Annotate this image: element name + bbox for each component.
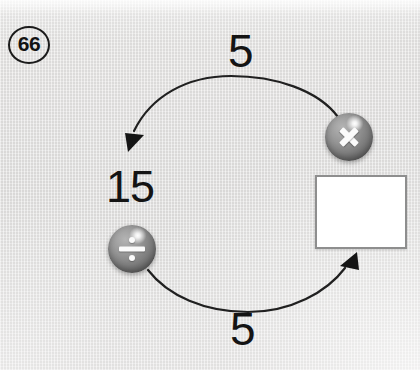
multiply-operator-ball — [325, 113, 373, 161]
arrow-label-top: 5 — [228, 28, 254, 74]
problem-number-badge: 66 — [8, 26, 50, 64]
divide-operator-ball — [108, 225, 156, 273]
arrow-top-head-icon — [125, 133, 144, 152]
arrow-bottom-head-icon — [340, 252, 359, 270]
arrow-label-bottom: 5 — [230, 306, 256, 352]
start-value-label: 15 — [106, 164, 154, 209]
worksheet-problem: 66 5 5 15 — [0, 0, 420, 370]
arrow-top-path — [134, 76, 338, 131]
answer-box[interactable] — [315, 175, 407, 249]
divide-icon — [108, 225, 156, 273]
multiply-icon — [325, 113, 373, 161]
